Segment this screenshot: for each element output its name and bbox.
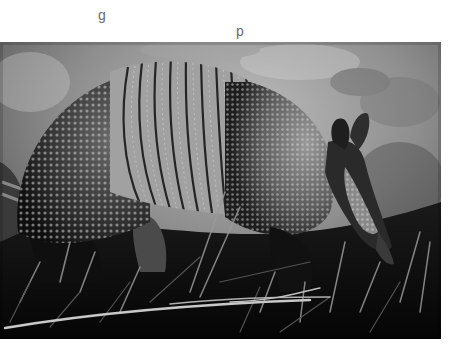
cut-off-text-line: g p	[0, 0, 460, 5]
text-fragment-right: p	[236, 23, 244, 39]
text-fragment-left: g	[98, 7, 106, 23]
photo-illustration	[0, 42, 441, 339]
armadillo-photo: Grayscale photo of a nine-banded armadil…	[0, 42, 441, 339]
